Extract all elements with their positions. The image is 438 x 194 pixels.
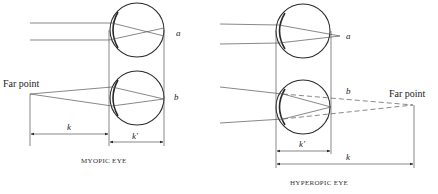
- dimension-k-label: k: [67, 122, 72, 132]
- far-point-label: Far point: [389, 88, 426, 99]
- label-b: b: [346, 86, 351, 96]
- incoming-ray: [220, 43, 279, 44]
- hyperopic-eye-b: [220, 80, 413, 134]
- hyperopic-eye-a: [220, 4, 340, 58]
- dimension-k-label: k: [346, 152, 351, 162]
- eyeball-icon: [110, 71, 164, 125]
- label-b: b: [174, 92, 179, 102]
- lens-icon: [113, 12, 118, 48]
- label-a: a: [176, 28, 181, 38]
- eye-diagram: a b Far point k k' MYOPIC EYE: [0, 0, 438, 194]
- diverging-ray: [30, 94, 112, 106]
- lens-icon: [113, 80, 118, 116]
- incoming-ray: [220, 24, 279, 25]
- eyeball-icon: [276, 80, 330, 134]
- eyeball-icon: [276, 4, 330, 58]
- dimension-k-prime-label: k': [299, 139, 306, 149]
- hyperopic-eye-panel: a b Far point k' k HYPEROPIC EYE: [220, 4, 426, 187]
- myopic-eye-a: [30, 3, 164, 57]
- diverging-ray: [30, 87, 112, 94]
- myopic-eye-panel: a b Far point k k' MYOPIC EYE: [3, 3, 181, 165]
- converging-ray: [220, 87, 283, 94]
- converging-ray: [220, 119, 283, 123]
- label-a: a: [346, 31, 351, 41]
- hyperopic-caption: HYPEROPIC EYE: [290, 179, 348, 187]
- refracted-ray: [283, 107, 331, 119]
- myopic-eye-b: [30, 71, 164, 125]
- refracted-ray: [112, 87, 164, 99]
- far-point-label: Far point: [3, 78, 40, 89]
- myopic-caption: MYOPIC EYE: [81, 157, 127, 165]
- lens-icon: [280, 13, 286, 49]
- refracted-ray: [112, 99, 164, 106]
- dimension-k-prime-label: k': [132, 131, 139, 141]
- virtual-ray-dashed: [283, 105, 413, 119]
